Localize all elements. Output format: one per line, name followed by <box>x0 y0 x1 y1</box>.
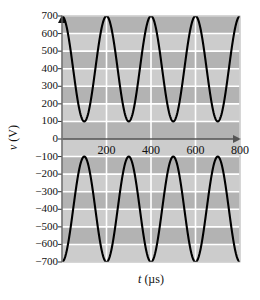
x-axis-label-unit: (µs) <box>144 272 164 286</box>
y-tick-label: 100 <box>24 115 58 126</box>
x-tick-label: 200 <box>87 143 127 158</box>
y-tick-label: 0 <box>24 133 58 144</box>
x-tick-label: 800 <box>220 143 260 158</box>
y-tick-label: −500 <box>24 221 58 232</box>
y-tick-label: 600 <box>24 28 58 39</box>
x-axis-label: t (µs) <box>62 272 240 287</box>
x-tick-label: 600 <box>176 143 216 158</box>
y-tick-label: −600 <box>24 238 58 249</box>
y-axis-label: v (V) <box>6 103 21 173</box>
y-axis-label-unit: (V) <box>6 125 20 142</box>
x-tick-label: 400 <box>131 143 171 158</box>
chart-figure: 7006005004003002001000−100−200−300−400−5… <box>0 0 260 300</box>
y-tick-label: −400 <box>24 203 58 214</box>
y-axis-label-symbol: v <box>6 145 20 150</box>
y-tick-label: 400 <box>24 63 58 74</box>
y-tick-label: 700 <box>24 10 58 21</box>
y-axis-tick-labels: 7006005004003002001000−100−200−300−400−5… <box>22 0 58 300</box>
y-tick-label: −100 <box>24 151 58 162</box>
y-tick-label: 300 <box>24 80 58 91</box>
y-tick-label: −700 <box>24 256 58 267</box>
y-tick-label: −200 <box>24 168 58 179</box>
y-tick-label: 500 <box>24 45 58 56</box>
y-tick-label: −300 <box>24 186 58 197</box>
y-tick-label: 200 <box>24 98 58 109</box>
